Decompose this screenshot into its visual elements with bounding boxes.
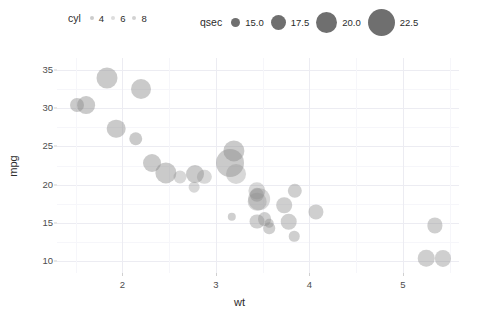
data-point (129, 132, 143, 146)
legend-qsec-dot-20 (316, 12, 337, 33)
x-axis-tick-label: 2 (110, 280, 134, 290)
gridline-minor-vertical (263, 58, 264, 273)
y-axis-tick-mark (54, 107, 57, 108)
legend-cyl-label-6: 6 (120, 14, 125, 24)
y-axis-tick-label: 30 (29, 103, 53, 113)
data-point (107, 119, 126, 138)
legend-qsec-key[interactable]: 17.5 (271, 15, 310, 30)
gridline-minor-vertical (450, 58, 451, 273)
y-axis-tick-label: 15 (29, 218, 53, 228)
legend-cyl-label-4: 4 (99, 14, 104, 24)
y-axis-tick-mark (54, 146, 57, 147)
data-point (70, 98, 84, 112)
gridline-major-horizontal (57, 146, 459, 147)
legend-cyl-label-8: 8 (141, 14, 146, 24)
legend-cyl-dot-4 (90, 16, 94, 20)
legend-qsec-label-175: 17.5 (291, 18, 310, 28)
x-axis-tick-mark (403, 273, 404, 276)
gridline-major-vertical (122, 58, 123, 273)
y-axis-tick-label: 20 (29, 180, 53, 190)
gridline-major-vertical (309, 58, 310, 273)
data-point (131, 79, 151, 99)
legend-qsec-dot-15 (231, 18, 240, 27)
gridline-major-vertical (403, 58, 404, 273)
y-axis-tick-label: 35 (29, 65, 53, 75)
legend-cyl-title: cyl (68, 13, 81, 24)
legend-qsec-key[interactable]: 22.5 (368, 9, 419, 36)
data-point (248, 192, 267, 211)
gridline-minor-horizontal (57, 166, 459, 167)
data-point (155, 163, 176, 184)
legend-cyl-dot-6 (111, 16, 115, 20)
data-point (228, 213, 236, 221)
data-point (276, 198, 292, 214)
data-point (289, 231, 300, 242)
data-point (265, 219, 274, 228)
data-point (288, 184, 302, 198)
legend-qsec: qsec 15.0 17.5 20.0 22.5 (200, 9, 425, 36)
legend-qsec-dot-175 (271, 15, 286, 30)
data-point (249, 214, 264, 229)
y-axis-tick-mark (54, 261, 57, 262)
data-point (281, 213, 298, 230)
y-axis-tick-label: 25 (29, 142, 53, 152)
legend-cyl: cyl 4 6 8 (68, 13, 154, 24)
gridline-minor-vertical (356, 58, 357, 273)
legend-qsec-key[interactable]: 15.0 (231, 18, 264, 28)
x-axis-tick-mark (309, 273, 310, 276)
y-axis-tick-mark (54, 184, 57, 185)
data-point (434, 250, 450, 266)
data-point (428, 218, 443, 233)
x-axis-tick-label: 4 (297, 280, 321, 290)
x-axis-tick-mark (216, 273, 217, 276)
data-point (418, 250, 435, 267)
data-point (308, 205, 323, 220)
y-axis-tick-label: 10 (29, 257, 53, 267)
gridline-minor-horizontal (57, 242, 459, 243)
legend-cyl-dot-8 (132, 16, 136, 20)
data-point (186, 165, 204, 183)
gridline-major-horizontal (57, 261, 459, 262)
x-axis-title: wt (0, 296, 479, 308)
gridline-minor-vertical (76, 58, 77, 273)
legend-qsec-label-15: 15.0 (245, 18, 264, 28)
x-axis-tick-label: 3 (204, 280, 228, 290)
gridline-minor-horizontal (57, 89, 459, 90)
y-axis-title: mpg (7, 155, 19, 176)
plot-panel (57, 58, 459, 273)
legend-cyl-key[interactable]: 6 (111, 14, 125, 24)
gridline-major-horizontal (57, 108, 459, 109)
y-axis-tick-mark (54, 69, 57, 70)
x-axis-tick-mark (122, 273, 123, 276)
data-point (216, 149, 244, 177)
scatter-plot-figure: cyl 4 6 8 qsec 15.0 17.5 20.0 (0, 0, 479, 324)
gridline-major-horizontal (57, 70, 459, 71)
data-point (97, 67, 118, 88)
legend-qsec-label-20: 20.0 (342, 18, 361, 28)
legend-cyl-key[interactable]: 4 (90, 14, 104, 24)
data-point (189, 182, 200, 193)
legend-qsec-label-225: 22.5 (400, 18, 419, 28)
y-axis-tick-mark (54, 223, 57, 224)
x-axis-tick-label: 5 (391, 280, 415, 290)
legend-qsec-dot-225 (368, 9, 395, 36)
legend-qsec-title: qsec (200, 17, 222, 28)
legend-qsec-key[interactable]: 20.0 (316, 12, 361, 33)
legend-cyl-key[interactable]: 8 (132, 14, 146, 24)
